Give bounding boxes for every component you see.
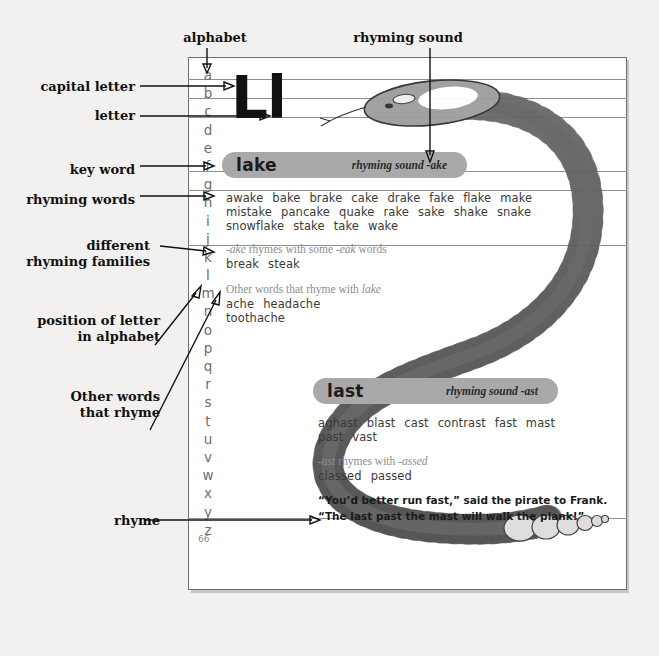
worksheet-page: a b c d e f g h i j k l m n o p q r s t … [0,0,659,656]
leader-lines [0,0,659,656]
